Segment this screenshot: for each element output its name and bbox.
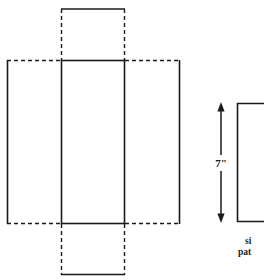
left-panel [7, 60, 61, 224]
top-flap [61, 9, 125, 60]
box-net [7, 9, 180, 275]
center-panel-outline [62, 61, 125, 224]
caption-line-1: si [245, 236, 252, 246]
right-panel [125, 60, 180, 224]
dimension-arrow-head-top [217, 102, 224, 112]
dimension-label: 7" [215, 157, 227, 169]
figure-root: 7" si pat [0, 0, 264, 280]
figure-canvas: 7" si pat [0, 0, 264, 280]
center-panel [62, 61, 125, 224]
side-pattern-rectangle [237, 103, 264, 222]
height-dimension-arrow: 7" [214, 102, 229, 223]
caption-line-2: pat [238, 247, 252, 257]
side-pattern-caption: si pat [238, 236, 252, 257]
bottom-flap [61, 224, 125, 275]
side-pattern: 7" si pat [214, 102, 264, 257]
dimension-arrow-head-bottom [217, 214, 224, 224]
